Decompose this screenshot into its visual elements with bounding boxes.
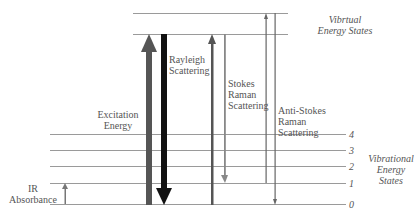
excitation-arrow: [141, 34, 157, 205]
antistokes-down-arrow: [273, 13, 277, 205]
stokes-down-arrow: [221, 34, 228, 183]
level-label-2: 2: [349, 161, 354, 172]
ir-arrow: [62, 183, 68, 204]
vibrational-states-label: Vibrational Energy States: [362, 153, 420, 186]
virtual-states-label: Vibrtual Energy States: [300, 14, 390, 36]
level-label-0: 0: [349, 199, 354, 210]
stokes-label: Stokes Raman Scattering: [228, 78, 269, 111]
antistokes-label: Anti-Stokes Raman Scattering: [278, 105, 326, 138]
ir-absorbance-label: IR Absorbance: [8, 183, 58, 205]
level-label-4: 4: [349, 129, 354, 140]
excitation-label: Excitation Energy: [93, 109, 143, 131]
level-label-3: 3: [349, 145, 354, 156]
rayleigh-label: Rayleigh Scattering: [169, 54, 210, 76]
level-label-1: 1: [349, 178, 354, 189]
